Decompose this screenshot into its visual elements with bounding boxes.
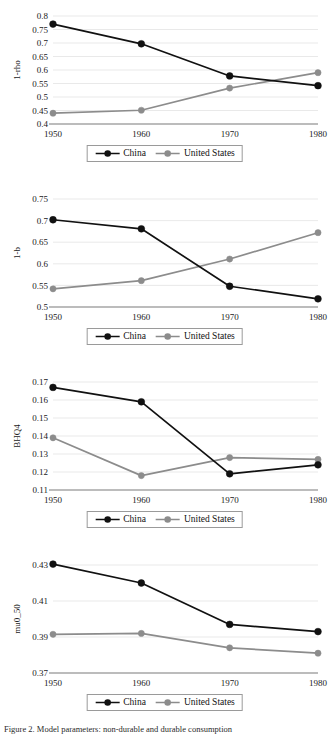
x-tick-label: 1960 xyxy=(132,129,151,139)
legend-marker-icon xyxy=(155,514,181,525)
legend-marker-icon xyxy=(94,514,120,525)
data-point-united-states-1950 xyxy=(50,110,56,116)
y-axis-title: mu0_50 xyxy=(12,604,22,634)
chart-legend: ChinaUnited States xyxy=(86,511,243,528)
y-tick-label: 0.12 xyxy=(32,467,48,477)
y-tick-label: 0.16 xyxy=(32,395,48,405)
y-tick-label: 0.39 xyxy=(32,632,48,642)
x-tick-label: 1950 xyxy=(44,312,63,322)
legend-marker-icon xyxy=(94,697,120,708)
data-point-united-states-1970 xyxy=(227,256,233,262)
y-tick-label: 0.75 xyxy=(32,194,48,204)
y-tick-label: 0.8 xyxy=(37,11,49,21)
legend-entry-united-states: United States xyxy=(155,514,235,525)
legend-entry-china: China xyxy=(94,697,146,708)
data-point-united-states-1980 xyxy=(315,70,321,76)
data-point-china-1970 xyxy=(226,283,233,290)
chart-panel-mu0-50: 0.370.390.410.431950196019701980mu0_50Ch… xyxy=(0,549,329,732)
figure-page: 0.40.450.50.550.60.650.70.750.8195019601… xyxy=(0,0,329,735)
legend-label: United States xyxy=(184,514,235,525)
legend-marker-icon xyxy=(155,331,181,342)
data-point-united-states-1970 xyxy=(227,85,233,91)
y-tick-label: 0.14 xyxy=(32,431,48,441)
y-tick-label: 0.11 xyxy=(33,485,48,495)
data-point-china-1960 xyxy=(138,225,145,232)
legend-entry-united-states: United States xyxy=(155,148,235,159)
series-line-united-states xyxy=(53,233,318,289)
data-point-china-1950 xyxy=(50,561,57,568)
y-axis-title: 1-rho xyxy=(12,60,22,80)
x-tick-label: 1970 xyxy=(221,129,240,139)
y-tick-label: 0.7 xyxy=(37,38,49,48)
y-tick-label: 0.37 xyxy=(32,668,48,678)
data-point-china-1960 xyxy=(138,580,145,587)
y-tick-label: 0.65 xyxy=(32,52,48,62)
data-point-united-states-1980 xyxy=(315,650,321,656)
y-tick-label: 0.5 xyxy=(37,302,49,312)
legend-label: China xyxy=(123,514,146,525)
series-line-china xyxy=(53,220,318,299)
legend-label: United States xyxy=(184,697,235,708)
y-tick-label: 0.7 xyxy=(37,216,49,226)
data-point-united-states-1950 xyxy=(50,286,56,292)
data-point-united-states-1980 xyxy=(315,230,321,236)
x-tick-label: 1950 xyxy=(44,495,63,505)
data-point-china-1970 xyxy=(226,470,233,477)
x-tick-label: 1950 xyxy=(44,129,63,139)
data-point-united-states-1960 xyxy=(138,630,144,636)
chart-panel-bhq4: 0.110.120.130.140.150.160.17195019601970… xyxy=(0,366,329,549)
data-point-china-1980 xyxy=(315,628,322,635)
y-tick-label: 0.43 xyxy=(32,560,48,570)
chart-legend: ChinaUnited States xyxy=(86,694,243,711)
series-line-china xyxy=(53,24,318,86)
legend-label: China xyxy=(123,331,146,342)
series-line-united-states xyxy=(53,73,318,114)
y-axis-title: 1-b xyxy=(12,247,22,259)
data-point-united-states-1960 xyxy=(138,278,144,284)
legend-entry-china: China xyxy=(94,514,146,525)
chart-legend: ChinaUnited States xyxy=(86,328,243,345)
x-tick-label: 1970 xyxy=(221,678,240,688)
y-tick-label: 0.55 xyxy=(32,79,48,89)
legend-label: United States xyxy=(184,148,235,159)
legend-label: China xyxy=(123,148,146,159)
data-point-united-states-1950 xyxy=(50,631,56,637)
x-tick-label: 1980 xyxy=(309,495,328,505)
chart-stack: 0.40.450.50.550.60.650.70.750.8195019601… xyxy=(0,0,329,732)
legend-entry-china: China xyxy=(94,331,146,342)
x-tick-label: 1970 xyxy=(221,495,240,505)
legend-marker-icon xyxy=(155,697,181,708)
y-tick-label: 0.6 xyxy=(37,259,49,269)
y-tick-label: 0.15 xyxy=(32,413,48,423)
y-tick-label: 0.17 xyxy=(32,377,48,387)
y-tick-label: 0.45 xyxy=(32,106,48,116)
y-tick-label: 0.6 xyxy=(37,65,49,75)
chart-panel-1-b: 0.50.550.60.650.70.7519501960197019801-b… xyxy=(0,183,329,366)
data-point-china-1980 xyxy=(315,295,322,302)
data-point-china-1950 xyxy=(50,384,57,391)
legend-entry-china: China xyxy=(94,148,146,159)
legend-label: United States xyxy=(184,331,235,342)
y-tick-label: 0.75 xyxy=(32,25,48,35)
data-point-united-states-1960 xyxy=(138,107,144,113)
series-line-united-states xyxy=(53,438,318,476)
data-point-china-1960 xyxy=(138,398,145,405)
chart-legend: ChinaUnited States xyxy=(86,145,243,162)
y-tick-label: 0.55 xyxy=(32,281,48,291)
data-point-china-1960 xyxy=(138,40,145,47)
data-point-china-1980 xyxy=(315,82,322,89)
series-line-china xyxy=(53,564,318,632)
data-point-china-1970 xyxy=(226,621,233,628)
legend-entry-united-states: United States xyxy=(155,331,235,342)
legend-marker-icon xyxy=(155,148,181,159)
x-tick-label: 1960 xyxy=(132,678,151,688)
legend-entry-united-states: United States xyxy=(155,697,235,708)
y-tick-label: 0.4 xyxy=(37,119,49,129)
y-tick-label: 0.13 xyxy=(32,449,48,459)
legend-label: China xyxy=(123,697,146,708)
y-axis-title: BHQ4 xyxy=(12,424,22,448)
data-point-china-1950 xyxy=(50,216,57,223)
data-point-united-states-1970 xyxy=(227,455,233,461)
legend-marker-icon xyxy=(94,331,120,342)
x-tick-label: 1960 xyxy=(132,495,151,505)
